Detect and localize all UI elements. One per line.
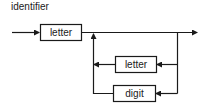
railroad-diagram: letter letter digit [0, 0, 204, 109]
node-label: letter [125, 59, 148, 70]
node-digit: digit [114, 86, 156, 102]
node-letter-first: letter [41, 25, 82, 41]
node-label: digit [125, 88, 144, 99]
node-label: letter [50, 27, 73, 38]
loop-back-arrow [94, 34, 114, 94]
node-letter-repeat: letter [116, 57, 157, 73]
